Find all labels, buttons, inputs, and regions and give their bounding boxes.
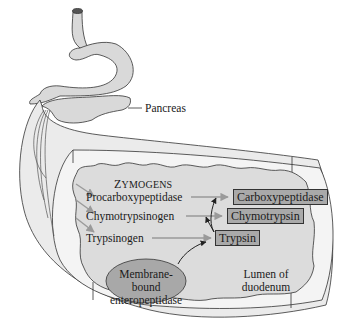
enteropeptidase-label: Membrane-bound enteropeptidase [106,268,186,307]
zymogens-heading: ZYMOGENS [114,177,172,192]
lumen-label: Lumen of duodenum [236,268,296,294]
enzyme-trypsin: Trypsin [215,230,260,246]
lumen-label-line1: Lumen of [236,268,296,281]
pancreas-label: Pancreas [145,102,186,115]
stomach [30,42,134,104]
enteropeptidase-line1: Membrane-bound [106,268,186,294]
enteropeptidase-line2: enteropeptidase [106,294,186,307]
pancreas [42,96,131,123]
enzyme-chymotrypsin: Chymotrypsin [227,208,304,224]
zymogens-heading-initial: Z [114,177,122,191]
lumen-label-line2: duodenum [236,281,296,294]
zymogen-trypsinogen: Trypsinogen [86,232,144,245]
enzyme-carboxypeptidase: Carboxypeptidase [233,189,328,205]
zymogen-chymotrypsinogen: Chymotrypsinogen [86,210,174,223]
zymogen-procarboxypeptidase: Procarboxypeptidase [86,191,182,204]
zymogens-heading-rest: YMOGENS [122,179,173,190]
